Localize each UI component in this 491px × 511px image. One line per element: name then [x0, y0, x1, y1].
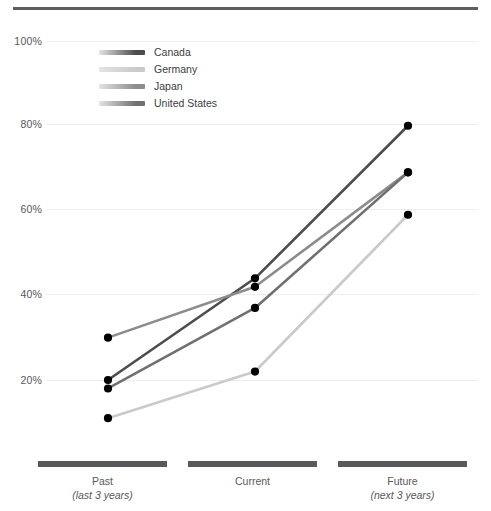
- legend-item-canada[interactable]: Canada: [99, 46, 217, 59]
- series-line-germany: [108, 372, 255, 419]
- data-point[interactable]: [251, 283, 259, 291]
- data-point[interactable]: [251, 367, 259, 375]
- x-axis-label-past: Past: [38, 475, 167, 488]
- x-axis-group-future[interactable]: Future (next 3 years): [338, 461, 467, 502]
- x-axis-sublabel-future: (next 3 years): [338, 488, 467, 502]
- series-line-canada: [255, 126, 408, 279]
- x-axis-bar-past: [38, 461, 167, 467]
- legend-swatch-united-states: [99, 101, 145, 106]
- data-point[interactable]: [404, 211, 412, 219]
- x-axis-bar-future: [338, 461, 467, 467]
- x-axis-group-current[interactable]: Current: [188, 461, 317, 488]
- legend-item-japan[interactable]: Japan: [99, 80, 217, 93]
- data-point[interactable]: [404, 122, 412, 130]
- series-line-united-states: [108, 308, 255, 389]
- data-point[interactable]: [251, 304, 259, 312]
- y-axis-tick-20: 20%: [20, 374, 42, 386]
- y-axis-tick-60: 60%: [20, 203, 42, 215]
- x-axis-bar-current: [188, 461, 317, 467]
- line-chart: 100% 80% 60% 40% 20% Canada Germany Japa…: [0, 0, 491, 511]
- x-axis-label-future: Future: [338, 475, 467, 488]
- series-line-united-states: [255, 172, 408, 308]
- legend-item-united-states[interactable]: United States: [99, 97, 217, 110]
- data-point[interactable]: [104, 414, 112, 422]
- data-point[interactable]: [104, 376, 112, 384]
- legend-swatch-germany: [99, 67, 145, 72]
- y-axis-tick-80: 80%: [20, 118, 42, 130]
- legend-label-united-states: United States: [154, 97, 217, 110]
- legend-label-japan: Japan: [154, 80, 183, 93]
- legend-item-germany[interactable]: Germany: [99, 63, 217, 76]
- data-point[interactable]: [104, 384, 112, 392]
- series-line-japan: [255, 172, 408, 286]
- data-point[interactable]: [251, 274, 259, 282]
- x-axis-sublabel-past: (last 3 years): [38, 488, 167, 502]
- top-divider-rule: [13, 7, 478, 10]
- legend-swatch-japan: [99, 84, 145, 89]
- legend-label-germany: Germany: [154, 63, 197, 76]
- legend-swatch-canada: [99, 50, 145, 55]
- legend: Canada Germany Japan United States: [99, 46, 217, 110]
- legend-label-canada: Canada: [154, 46, 191, 59]
- y-axis-tick-40: 40%: [20, 288, 42, 300]
- data-point[interactable]: [404, 168, 412, 176]
- series-line-germany: [255, 215, 408, 372]
- x-axis-label-current: Current: [188, 475, 317, 488]
- x-axis-group-past[interactable]: Past (last 3 years): [38, 461, 167, 502]
- y-axis-tick-100: 100%: [14, 35, 42, 47]
- data-point[interactable]: [104, 334, 112, 342]
